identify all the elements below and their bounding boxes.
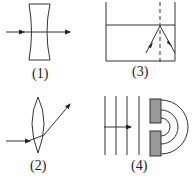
ray-reflected (160, 26, 175, 53)
optics-figure: (1) (3) (2) (4) (0, 0, 196, 180)
barrier-bottom (150, 131, 161, 156)
panel-1-concave-lens: (1) (6, 4, 70, 82)
arrow-down-icon (167, 40, 172, 46)
panel-2-convex-lens: (2) (6, 97, 70, 174)
panel-4-diffraction: (4) (104, 96, 188, 174)
ray-incident (146, 26, 160, 53)
panel-3-reflection: (3) (106, 2, 175, 80)
barrier-top (150, 99, 161, 123)
wave-arc (161, 100, 188, 154)
container (106, 2, 175, 61)
wave-arc (161, 118, 170, 136)
ray-refracted (44, 104, 70, 135)
panel-2-label: (2) (30, 158, 47, 174)
panel-4-label: (4) (131, 158, 148, 174)
panel-1-label: (1) (32, 66, 49, 82)
panel-3-label: (3) (132, 64, 149, 80)
arrow-up-icon (148, 42, 153, 48)
convex-lens (32, 97, 44, 153)
